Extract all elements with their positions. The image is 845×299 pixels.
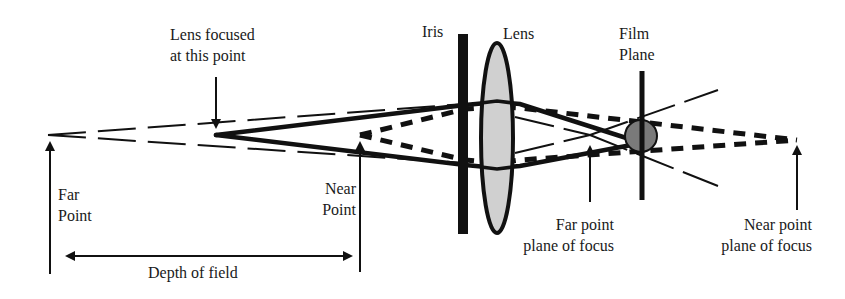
label-lens: Lens (503, 23, 534, 44)
lens (481, 43, 513, 233)
label-iris: Iris (422, 21, 443, 42)
label-near-point: Near Point (312, 178, 356, 220)
label-far-point-plane: Far point plane of focus (498, 214, 614, 256)
label-far-point: Far Point (58, 184, 92, 226)
label-lens-focused: Lens focused at this point (170, 24, 255, 66)
far-point-rays-image-side (515, 90, 718, 186)
label-near-point-plane: Near point plane of focus (688, 214, 812, 256)
label-film-plane: Film Plane (619, 23, 655, 65)
iris (458, 34, 468, 234)
label-depth-of-field: Depth of field (148, 262, 238, 283)
